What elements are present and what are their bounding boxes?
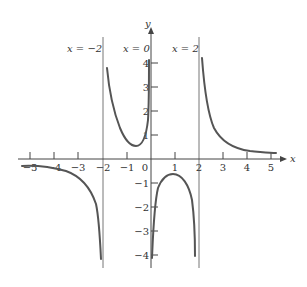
branch-right-middle <box>152 174 195 258</box>
x-tick-label: 5 <box>268 162 274 173</box>
x-tick-label: −1 <box>120 162 135 173</box>
x-axis-arrow-icon <box>280 156 287 162</box>
x-tick-label: 3 <box>220 162 226 173</box>
asymptote-label-2: x = 2 <box>172 43 199 54</box>
x-tick-label: 1 <box>172 162 178 173</box>
x-tick-label: −5 <box>23 162 38 173</box>
branch-right-outer <box>202 58 276 153</box>
y-tick-label: −1 <box>134 178 149 189</box>
x-tick-labels: −5 −4 −3 −2 −1 0 1 2 3 4 5 <box>23 162 275 173</box>
y-tick-label: −2 <box>134 202 149 213</box>
function-graph: −5 −4 −3 −2 −1 0 1 2 3 4 5 4 3 2 1 −1 −2… <box>0 0 307 287</box>
y-tick-label: −3 <box>134 226 149 237</box>
x-tick-label: 4 <box>244 162 250 173</box>
x-tick-label: −3 <box>71 162 86 173</box>
asymptote-label-0: x = 0 <box>123 43 150 54</box>
asymptote-label-neg2: x = −2 <box>67 43 102 54</box>
branch-left-outer <box>22 166 101 259</box>
y-tick-label: −4 <box>134 250 149 261</box>
x-tick-label: −2 <box>96 162 111 173</box>
y-axis-label: y <box>144 18 151 29</box>
x-tick-label: 0 <box>142 162 148 173</box>
x-tick-label: 2 <box>196 162 202 173</box>
x-axis-label: x <box>290 153 296 164</box>
